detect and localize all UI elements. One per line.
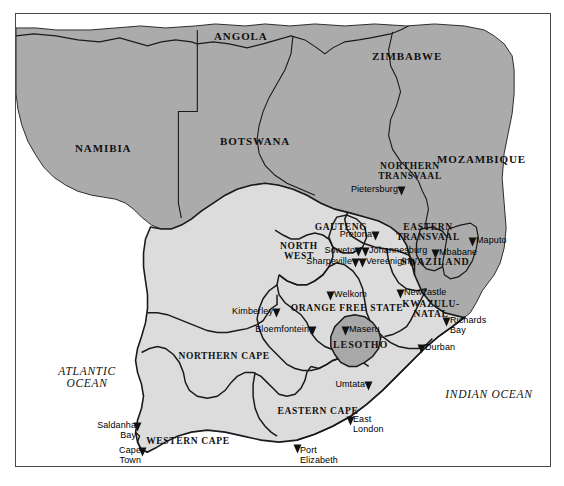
city-label: Maseru [349,324,380,334]
city-label: Sharpeville [306,256,352,266]
city-durban[interactable]: Durban [417,344,426,354]
city-mbabane[interactable]: Mbabane [431,249,440,259]
country-label-angola: ANGOLA [214,31,268,43]
city-label: Pietersburg [351,184,398,194]
country-label-lesotho: LESOTHO [333,340,388,351]
city-label: Richards Bay [450,315,486,335]
city-label: Soweto [324,245,355,255]
city-marker-icon [308,326,317,336]
city-east-london[interactable]: East London [346,416,355,426]
city-label: Maputo [476,235,507,245]
city-label: Bloemfontein [255,324,309,334]
city-label: Kimberley [232,306,273,316]
city-marker-icon [397,186,406,196]
city-bloemfontein[interactable]: Bloemfontein [308,326,317,336]
city-newcastle[interactable]: Newcastle [396,289,405,299]
map-container: ANGOLA ZIMBABWE NAMIBIA BOTSWANA MOZAMBI… [0,0,564,486]
city-label: Durban [425,342,455,352]
city-saldanha-bay[interactable]: Saldanha Bay [133,422,142,432]
country-label-zimbabwe: ZIMBABWE [372,51,442,63]
city-umtata[interactable]: Umtata [364,381,373,391]
city-label: Pretoria [340,229,372,239]
city-sharpeville[interactable]: Sharpeville [351,258,360,268]
province-label-orange-free-state: ORANGE FREE STATE [279,304,415,314]
city-label: Saldanha Bay [97,420,136,440]
city-label: Mbabane [439,247,477,257]
city-marker-icon [371,231,380,241]
city-soweto[interactable]: Soweto [354,247,363,257]
city-label: Cape Town [119,445,141,465]
city-marker-icon [351,258,360,268]
city-label: Welkom [334,289,367,299]
map-frame: ANGOLA ZIMBABWE NAMIBIA BOTSWANA MOZAMBI… [15,13,551,467]
city-label: Umtata [335,379,365,389]
city-pretoria[interactable]: Pretoria [371,231,380,241]
city-marker-icon [354,247,363,257]
city-maputo[interactable]: Maputo [468,237,477,247]
city-port-elizabeth[interactable]: Port Elizabeth [293,444,302,454]
ocean-label-atlantic: ATLANTICOCEAN [42,365,132,389]
ocean-label-indian: INDIAN OCEAN [427,388,551,400]
city-cape-town[interactable]: Cape Town [138,447,147,457]
city-pietersburg[interactable]: Pietersburg [397,186,406,196]
city-label: Johannesburg [369,245,427,255]
city-kimberley[interactable]: Kimberley [272,308,281,318]
city-maseru[interactable]: Maseru [341,326,350,336]
city-welkom[interactable]: Welkom [326,291,335,301]
country-label-mozambique: MOZAMBIQUE [437,154,526,166]
city-label: Port Elizabeth [300,445,338,465]
city-label: East London [353,414,384,434]
city-marker-icon [272,308,281,318]
city-label: Vereeniging [366,256,415,266]
city-label: Newcastle [404,287,446,297]
country-label-botswana: BOTSWANA [220,136,290,148]
province-label-western-cape: WESTERN CAPE [136,437,240,447]
province-label-northern-transvaal: NORTHERNTRANSVAAL [371,162,449,182]
city-richards-bay[interactable]: Richards Bay [442,317,451,327]
city-marker-icon [364,381,373,391]
province-label-northern-cape: NORTHERN CAPE [169,352,279,362]
province-label-eastern-transvaal: EASTERNTRANSVAAL [389,223,467,243]
country-label-namibia: NAMIBIA [75,143,131,155]
